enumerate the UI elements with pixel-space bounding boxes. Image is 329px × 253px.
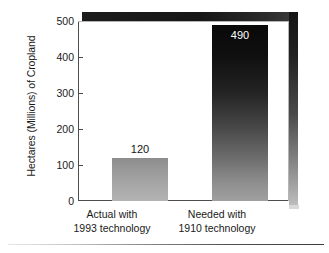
x-category-label-actual-1993-line2: 1993 technology — [62, 222, 162, 236]
value-label-needed-1910: 490 — [212, 29, 268, 41]
y-tick-mark-400 — [78, 57, 83, 58]
y-axis-title: Hectares (Millions) of Cropland — [23, 11, 39, 201]
x-category-label-needed-1910-line1: Needed with — [162, 208, 272, 222]
bottom-divider-rule — [8, 244, 324, 245]
y-tick-mark-0 — [78, 200, 83, 201]
y-tick-mark-500 — [78, 21, 83, 22]
y-tick-label-300: 300 — [42, 88, 74, 98]
frame-shadow-top — [82, 12, 295, 21]
y-tick-label-100: 100 — [42, 160, 74, 170]
y-tick-label-200: 200 — [42, 124, 74, 134]
bar-actual-1993[interactable] — [112, 158, 168, 201]
y-tick-mark-300 — [78, 93, 83, 94]
x-category-label-actual-1993-line1: Actual with — [62, 208, 162, 222]
y-tick-mark-200 — [78, 129, 83, 130]
bar-needed-1910[interactable] — [212, 25, 268, 201]
value-label-actual-1993: 120 — [112, 143, 168, 155]
plot-area: 120 490 — [78, 21, 289, 201]
bar-chart-figure: Hectares (Millions) of Cropland 500 400 … — [0, 0, 329, 253]
y-tick-label-500: 500 — [42, 16, 74, 26]
x-category-label-needed-1910: Needed with 1910 technology — [162, 208, 272, 235]
y-tick-mark-100 — [78, 165, 83, 166]
y-tick-label-400: 400 — [42, 52, 74, 62]
x-category-label-needed-1910-line2: 1910 technology — [162, 222, 272, 236]
frame-shadow-right — [289, 12, 298, 209]
y-tick-label-0: 0 — [42, 196, 74, 206]
x-category-label-actual-1993: Actual with 1993 technology — [62, 208, 162, 235]
frame-shadow-right-foot — [289, 205, 299, 209]
